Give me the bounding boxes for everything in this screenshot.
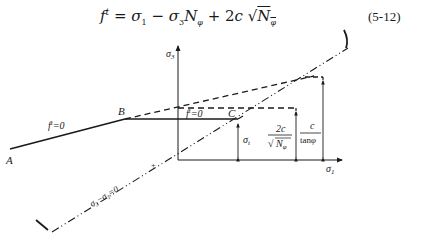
sigma-t-label: σt (243, 134, 251, 147)
sigma1-axis: σ1 (178, 160, 342, 176)
cohesion-intercept-fraction: c tanφ (300, 120, 321, 145)
tension-cutoff-diagram: σ3 σ1 A B C ft=0 ft=0 σt 2c √ Nφ c (0, 0, 423, 246)
sigma3-axis: σ3 (166, 46, 178, 160)
point-C-label: C (228, 107, 236, 119)
svg-text:Nφ: Nφ (275, 138, 287, 151)
svg-text:√: √ (268, 138, 274, 149)
ft-zero-label-left: ft=0 (48, 119, 64, 131)
origin-plus-mark: + (151, 161, 156, 170)
ft-zero-label-mid: ft=0 (186, 107, 202, 119)
point-B-label: B (118, 105, 125, 117)
hydrostatic-upper-end-tick (344, 30, 347, 48)
shear-failure-line-AB (10, 119, 125, 149)
svg-text:2c: 2c (276, 123, 286, 134)
hydrostatic-line-label: σ3−σ1=0 (88, 184, 121, 210)
tensile-strength-fraction: 2c √ Nφ (268, 123, 292, 151)
svg-text:c: c (310, 120, 315, 131)
hydrostatic-lower-end-tick (36, 220, 48, 230)
point-A-label: A (5, 154, 13, 166)
sigma3-axis-label: σ3 (166, 48, 175, 61)
sigma1-axis-label: σ1 (326, 163, 334, 176)
svg-text:tanφ: tanφ (300, 135, 316, 145)
corner-C-segment (238, 116, 243, 119)
shear-line-extension (125, 76, 314, 119)
